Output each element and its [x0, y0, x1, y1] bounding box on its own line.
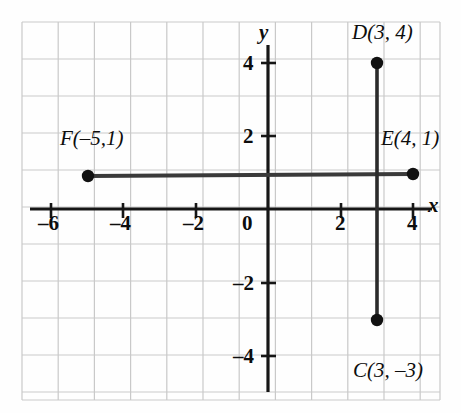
- x-axis-label: x: [428, 195, 439, 216]
- y-tick-label--4: –4: [233, 346, 254, 367]
- y-tick-label--2: –2: [233, 273, 254, 294]
- point-e: [407, 168, 419, 180]
- point-c: [371, 314, 383, 326]
- x-tick-label-2: 2: [335, 213, 346, 234]
- point-d: [371, 57, 383, 69]
- origin-label: 0: [242, 213, 253, 234]
- segment-fe: [88, 174, 413, 176]
- x-tick-label--6: –6: [38, 213, 59, 234]
- point-label-e: E(4, 1): [381, 128, 439, 149]
- point-label-f: F(–5,1): [60, 128, 124, 149]
- x-tick-label--2: –2: [183, 213, 204, 234]
- x-tick-label-4: 4: [407, 213, 418, 234]
- x-tick-label--4: –4: [110, 213, 131, 234]
- coordinate-plane-figure: y x 0 –6 –4 –2 2 4 4 2 –2 –4 D(3, 4) E(4…: [0, 0, 461, 413]
- point-label-d: D(3, 4): [352, 22, 413, 43]
- y-tick-label-4: 4: [243, 53, 254, 74]
- point-f: [82, 170, 94, 182]
- y-axis-label: y: [259, 22, 268, 43]
- point-label-c: C(3, –3): [353, 360, 423, 381]
- plot-canvas: [0, 0, 461, 413]
- y-tick-label-2: 2: [243, 126, 254, 147]
